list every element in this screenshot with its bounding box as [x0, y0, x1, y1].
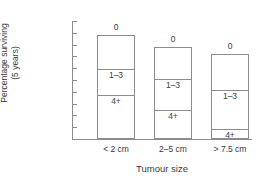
bar[interactable]: 1–34+: [97, 35, 135, 139]
segment-label: 1–3: [223, 92, 237, 101]
segment-label-above: 0: [97, 23, 135, 32]
bar[interactable]: 1–34+: [211, 54, 249, 139]
y-axis-tick: [73, 104, 77, 105]
bar-segment[interactable]: [98, 36, 134, 70]
bar-segment[interactable]: [155, 48, 191, 79]
y-axis-tick: [73, 127, 77, 128]
y-axis-title-line2: (5 years): [10, 4, 21, 122]
y-axis-tick: [73, 56, 77, 57]
y-axis-tick: [73, 139, 77, 140]
x-axis-tick-label: > 7.5 cm: [198, 145, 262, 154]
bar-segment[interactable]: 4+: [98, 95, 134, 140]
y-axis-tick: [73, 68, 77, 69]
x-axis-title: Tumour size: [72, 163, 252, 174]
segment-label: 4+: [168, 112, 178, 121]
y-axis-tick: [73, 21, 77, 22]
x-axis-tick-label: 2–5 cm: [141, 145, 205, 154]
segment-label: 4+: [111, 97, 121, 106]
y-axis-tick: [73, 45, 77, 46]
segment-label: 4+: [225, 131, 235, 140]
bar-segment[interactable]: [212, 55, 248, 90]
plot-area: 1009080706050403020100 1–34+01–34+01–34+…: [72, 21, 238, 139]
bar-segment[interactable]: 1–3: [155, 79, 191, 110]
segment-label: 1–3: [166, 81, 180, 90]
bar-segment[interactable]: 1–3: [98, 69, 134, 95]
bar-segment[interactable]: 4+: [155, 110, 191, 140]
chart-container: Percentage surviving (5 years) 100908070…: [0, 0, 264, 186]
y-axis-title: Percentage surviving (5 years): [0, 4, 21, 122]
y-axis-tick: [73, 92, 77, 93]
bar-segment[interactable]: 4+: [212, 129, 248, 140]
bar-segment[interactable]: 1–3: [212, 90, 248, 129]
bar[interactable]: 1–34+: [154, 47, 192, 139]
y-axis-tick: [73, 115, 77, 116]
segment-label: 1–3: [109, 71, 123, 80]
x-axis-tick-label: < 2 cm: [84, 145, 148, 154]
segment-label-above: 0: [211, 42, 249, 51]
y-axis-tick: [73, 33, 77, 34]
y-axis-title-line1: Percentage surviving: [0, 23, 9, 102]
segment-label-above: 0: [154, 35, 192, 44]
y-axis-tick: [73, 80, 77, 81]
